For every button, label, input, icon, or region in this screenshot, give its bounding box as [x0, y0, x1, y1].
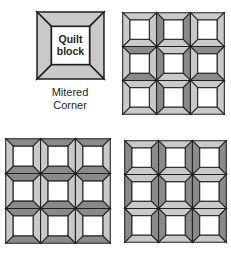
quilt-layout-vertical-bands — [124, 140, 227, 243]
block-center-square — [132, 148, 151, 167]
block-center-square — [198, 88, 217, 107]
block-center-square — [130, 20, 149, 39]
block-center-square — [166, 216, 185, 235]
block-center-square — [200, 182, 219, 201]
checkerboard-layout-graphic — [122, 12, 225, 115]
block-center-square — [166, 148, 185, 167]
block-center-square — [13, 181, 33, 201]
block-center-square — [13, 146, 33, 166]
block-center-square — [48, 146, 68, 166]
single-block-graphic — [36, 11, 105, 80]
block-center-square — [130, 88, 149, 107]
block-center-square — [13, 216, 33, 236]
block-center-square — [200, 148, 219, 167]
single-quilt-block: Quilt block — [36, 11, 105, 80]
block-center-square — [164, 88, 183, 107]
vertical-bands-layout-graphic — [124, 140, 227, 243]
mitered-corner-caption: Mitered Corner — [20, 86, 120, 111]
block-center-square — [83, 146, 103, 166]
block-center-square — [198, 20, 217, 39]
block-center-square — [48, 216, 68, 236]
block-center-square — [130, 54, 149, 73]
block-center-square — [164, 20, 183, 39]
block-center-square — [166, 182, 185, 201]
block-center-square — [164, 54, 183, 73]
quilt-layout-horizontal-bands — [5, 138, 111, 244]
caption-line-1: Mitered — [20, 86, 120, 99]
caption-line-2: Corner — [20, 99, 120, 112]
block-center-square — [51, 26, 89, 64]
block-center-square — [83, 181, 103, 201]
block-center-square — [83, 216, 103, 236]
quilt-layout-checkerboard — [122, 12, 225, 115]
block-center-square — [132, 182, 151, 201]
quilt-diagram: Quilt block Mitered Corner — [0, 0, 231, 257]
block-center-square — [200, 216, 219, 235]
horizontal-bands-layout-graphic — [5, 138, 111, 244]
block-center-square — [132, 216, 151, 235]
block-center-square — [198, 54, 217, 73]
block-center-square — [48, 181, 68, 201]
